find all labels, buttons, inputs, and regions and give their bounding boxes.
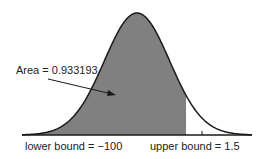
lower-bound-label: lower bound = −100 [25,140,122,152]
upper-bound-label: upper bound = 1.5 [150,140,240,152]
area-annotation: Area = 0.933193 [16,64,98,76]
normal-curve-chart [0,0,268,159]
